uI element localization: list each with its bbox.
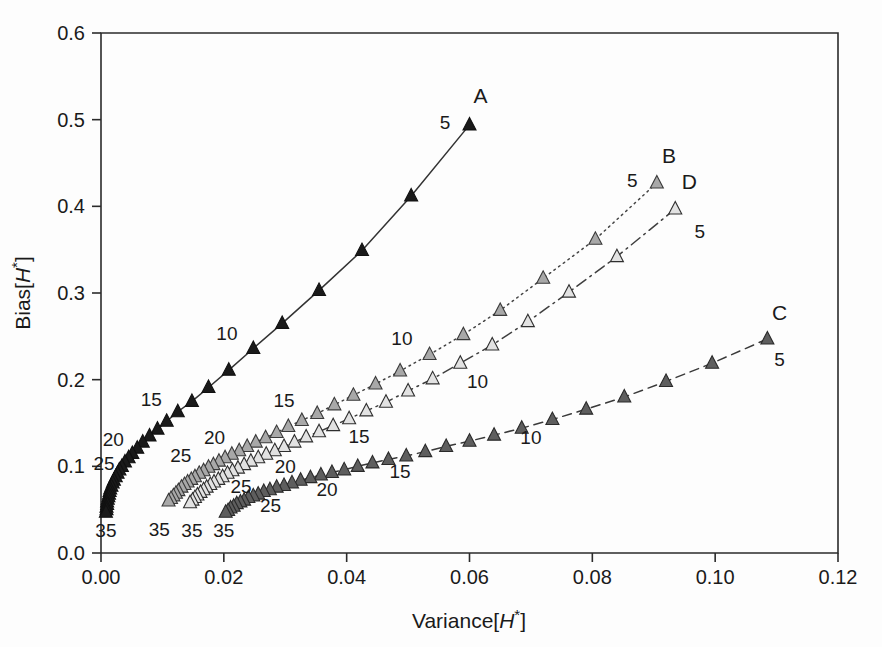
data-point-marker	[402, 383, 415, 395]
data-point-marker	[454, 356, 467, 368]
data-point-marker	[300, 429, 313, 441]
data-point-marker	[426, 371, 439, 383]
data-point-marker	[369, 377, 382, 389]
series-line-A	[106, 125, 470, 512]
data-point-marker	[171, 404, 184, 416]
point-label-D-25: 25	[230, 476, 251, 497]
point-label-C-35: 35	[213, 520, 234, 541]
point-label-B-35: 35	[149, 519, 170, 540]
point-label-D-35: 35	[181, 520, 202, 541]
data-point-marker	[311, 406, 324, 418]
data-point-marker	[202, 380, 215, 392]
data-point-marker	[282, 419, 295, 431]
data-point-marker	[328, 397, 341, 409]
data-point-marker	[270, 425, 283, 437]
y-tick-label: 0.6	[57, 22, 85, 44]
y-axis-title: Bias[H*]	[8, 256, 35, 330]
data-point-marker	[247, 341, 260, 353]
point-label-C-5: 5	[774, 349, 785, 370]
data-point-marker	[463, 434, 476, 446]
data-point-marker	[327, 418, 340, 430]
y-tick-label: 0.4	[57, 195, 85, 217]
point-label-B-15: 15	[273, 390, 294, 411]
series-label-A: A	[474, 84, 488, 107]
svg-text:Bias[H*]: Bias[H*]	[8, 256, 35, 330]
y-tick-label: 0.2	[57, 369, 85, 391]
data-point-marker	[589, 232, 602, 244]
data-point-marker	[521, 314, 534, 326]
point-label-A-10: 10	[216, 323, 237, 344]
data-point-marker	[486, 338, 499, 350]
scatter-plot-svg: 0.000.020.040.060.080.100.12 0.00.10.20.…	[0, 0, 882, 647]
y-tick-label: 0.3	[57, 282, 85, 304]
data-point-marker	[494, 303, 507, 315]
point-label-C-10: 10	[520, 427, 541, 448]
x-tick-label: 0.06	[450, 566, 489, 588]
point-label-D-10: 10	[467, 371, 488, 392]
data-point-marker	[669, 201, 682, 213]
point-label-A-35: 35	[95, 520, 116, 541]
data-point-marker	[379, 395, 392, 407]
x-tick-label: 0.00	[82, 566, 121, 588]
point-label-A-20: 20	[103, 429, 124, 450]
x-tick-label: 0.04	[327, 566, 366, 588]
data-point-marker	[562, 285, 575, 297]
point-label-C-15: 15	[390, 461, 411, 482]
point-label-A-5: 5	[440, 112, 451, 133]
y-axis-ticks: 0.00.10.20.30.40.50.6	[57, 22, 101, 564]
x-tick-label: 0.10	[696, 566, 735, 588]
x-tick-label: 0.02	[204, 566, 243, 588]
series-label-C: C	[772, 301, 787, 324]
y-tick-label: 0.1	[57, 455, 85, 477]
data-point-marker	[580, 402, 593, 414]
data-point-marker	[463, 117, 476, 129]
x-axis-title: Variance[H*]	[412, 606, 526, 633]
x-axis-ticks: 0.000.020.040.060.080.100.12	[82, 553, 858, 588]
point-label-B-10: 10	[391, 328, 412, 349]
data-series-group	[99, 117, 773, 517]
data-point-marker	[419, 444, 432, 456]
point-label-D-5: 5	[695, 221, 706, 242]
data-point-marker	[288, 435, 301, 447]
point-label-C-25: 25	[260, 495, 281, 516]
data-point-marker	[222, 363, 235, 375]
figure-container: 0.000.020.040.060.080.100.12 0.00.10.20.…	[0, 0, 882, 647]
data-point-marker	[761, 331, 774, 343]
data-point-marker	[343, 411, 356, 423]
series-label-D: D	[682, 170, 697, 193]
series-end-labels-group: ABCD	[474, 84, 788, 324]
point-label-A-15: 15	[141, 389, 162, 410]
plot-frame	[101, 33, 838, 553]
data-point-marker	[394, 364, 407, 376]
series-label-B: B	[662, 144, 676, 167]
data-point-marker	[295, 413, 308, 425]
point-label-B-25: 25	[170, 445, 191, 466]
data-point-marker	[537, 271, 550, 283]
x-tick-label: 0.12	[819, 566, 858, 588]
point-label-A-25: 25	[94, 453, 115, 474]
data-point-marker	[313, 283, 326, 295]
y-tick-label: 0.0	[57, 542, 85, 564]
point-label-D-20: 20	[275, 456, 296, 477]
data-point-marker	[457, 327, 470, 339]
point-label-D-15: 15	[348, 426, 369, 447]
axis-frame	[101, 33, 838, 553]
data-point-marker	[706, 356, 719, 368]
point-label-C-20: 20	[316, 479, 337, 500]
data-point-marker	[650, 175, 663, 187]
data-point-marker	[347, 388, 360, 400]
point-label-B-5: 5	[627, 170, 638, 191]
point-label-B-20: 20	[204, 427, 225, 448]
data-point-marker	[610, 249, 623, 261]
svg-text:Variance[H*]: Variance[H*]	[412, 606, 526, 633]
data-point-marker	[276, 316, 289, 328]
data-point-marker	[423, 347, 436, 359]
y-tick-label: 0.5	[57, 109, 85, 131]
x-tick-label: 0.08	[573, 566, 612, 588]
data-point-marker	[185, 394, 198, 406]
